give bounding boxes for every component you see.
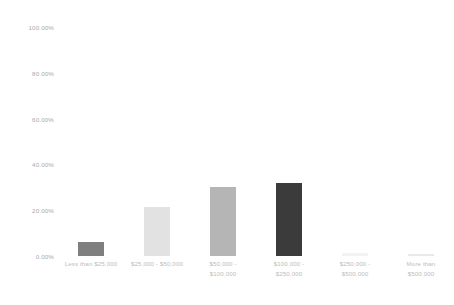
- y-axis-tick-label: 60.00%: [32, 115, 54, 122]
- bar-slot: [408, 0, 434, 256]
- y-axis-tick-label: 20.00%: [32, 207, 54, 214]
- x-axis-category-label: $50,000 - $100,000: [190, 259, 256, 279]
- x-axis-category-label: Less than $25,000: [58, 259, 124, 269]
- bar-chart: 0.00%20.00%40.00%60.00%80.00%100.00% Les…: [0, 0, 454, 305]
- y-axis-tick-label: 80.00%: [32, 69, 54, 76]
- x-axis-category-label: $100,000 - $250,000: [256, 259, 322, 279]
- y-axis-tick-label: 40.00%: [32, 161, 54, 168]
- y-axis: 0.00%20.00%40.00%60.00%80.00%100.00%: [0, 0, 58, 305]
- y-axis-tick-label: 100.00%: [29, 24, 54, 31]
- bar-slot: [78, 0, 104, 256]
- bar[interactable]: [342, 253, 368, 256]
- x-axis-category-label: $250,000 - $500,000: [322, 259, 388, 279]
- bar[interactable]: [408, 254, 434, 256]
- x-axis-category-label: $25,000 - $50,000: [124, 259, 190, 269]
- y-axis-tick-label: 0.00%: [36, 253, 54, 260]
- bar-slot: [342, 0, 368, 256]
- bar-slot: [210, 0, 236, 256]
- x-axis-category-label: More than $500,000: [388, 259, 454, 279]
- bar[interactable]: [144, 207, 170, 256]
- bar[interactable]: [276, 183, 302, 256]
- bar-slot: [144, 0, 170, 256]
- bar-slot: [276, 0, 302, 256]
- bar[interactable]: [210, 187, 236, 256]
- bar[interactable]: [78, 242, 104, 256]
